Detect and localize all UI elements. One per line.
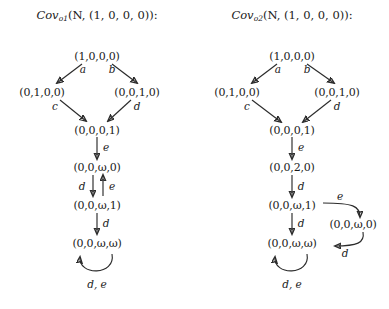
node-0-0-0-1: (0,0,0,1)	[74, 124, 119, 137]
node-1-0-0-0: (1,0,0,0)	[269, 50, 314, 63]
edge-label-d-3: d	[298, 217, 305, 229]
edge-b	[307, 64, 334, 83]
edge-d-right	[303, 100, 331, 122]
node-0-1-0-0: (0,1,0,0)	[214, 86, 259, 99]
edge-label-d-2: d	[79, 180, 86, 192]
edge-d-curve	[335, 232, 363, 246]
title-arguments: (N, (1, 0, 0, 0)):	[68, 8, 158, 22]
edge-label-b: b	[109, 63, 116, 75]
node-1-0-0-0: (1,0,0,0)	[74, 50, 119, 63]
node-0-0-w-1: (0,0,ω,1)	[268, 199, 315, 212]
edge-label-c: c	[244, 100, 250, 112]
node-0-0-1-0: (0,0,1,0)	[314, 86, 359, 99]
edge-label-e-2: e	[109, 180, 115, 192]
node-0-0-w-w: (0,0,ω,ω)	[72, 237, 121, 250]
edge-d-right	[108, 100, 131, 121]
edge-label-d-4: d	[342, 247, 349, 259]
coverability-graph-o1: Covo1(N, (1, 0, 0, 0)): (1,0,0,0) (0,1,0…	[0, 0, 194, 309]
node-0-1-0-0: (0,1,0,0)	[19, 86, 64, 99]
title-function-name: Cov	[231, 8, 253, 22]
edge-label-d-1: d	[334, 100, 341, 112]
edge-e-curve	[323, 203, 360, 217]
edge-self-loop-de	[80, 254, 112, 271]
edge-label-a: a	[80, 63, 86, 75]
title-function-name: Cov	[36, 8, 58, 22]
edge-label-e-1: e	[103, 141, 109, 153]
node-0-0-w-0: (0,0,ω,0)	[329, 218, 376, 231]
edge-label-d-1: d	[134, 100, 141, 112]
node-0-0-w-w: (0,0,ω,ω)	[267, 237, 316, 250]
coverability-graph-o2: Covo2(N, (1, 0, 0, 0)): (1,0,0,0) (0,1,0…	[195, 0, 389, 309]
edges-o1	[0, 0, 194, 309]
edge-label-e-2: e	[337, 190, 343, 202]
edge-self-loop-de	[275, 254, 307, 271]
edge-c	[252, 100, 281, 122]
edge-label-d-e: d, e	[282, 278, 302, 290]
node-0-0-0-1: (0,0,0,1)	[269, 124, 314, 137]
node-0-0-2-0: (0,0,2,0)	[269, 161, 314, 174]
edge-label-d-2: d	[298, 180, 305, 192]
edge-label-a: a	[275, 63, 281, 75]
edge-a	[57, 64, 82, 83]
edge-b	[112, 64, 137, 83]
node-0-0-1-0: (0,0,1,0)	[114, 86, 159, 99]
edge-label-c: c	[52, 100, 58, 112]
node-0-0-w-1: (0,0,ω,1)	[73, 199, 120, 212]
edge-label-e-1: e	[298, 141, 304, 153]
edge-a	[252, 64, 277, 83]
diagram-title-o1: Covo1(N, (1, 0, 0, 0)):	[0, 8, 194, 23]
edge-c	[60, 100, 86, 121]
node-0-0-w-0: (0,0,ω,0)	[73, 161, 120, 174]
edge-label-d-e: d, e	[87, 278, 107, 290]
edges-o2	[195, 0, 389, 309]
edge-label-d-3: d	[103, 217, 110, 229]
diagram-title-o2: Covo2(N, (1, 0, 0, 0)):	[195, 8, 389, 23]
title-arguments: (N, (1, 0, 0, 0)):	[263, 8, 353, 22]
edge-label-b: b	[304, 63, 311, 75]
